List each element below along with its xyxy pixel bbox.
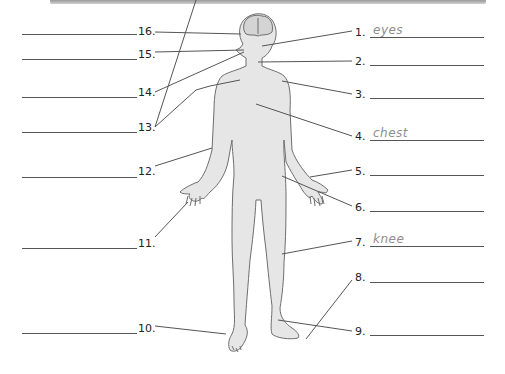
answer-blank[interactable]	[370, 98, 484, 99]
label-number: 10.	[138, 323, 156, 335]
answer-text: knee	[373, 233, 404, 245]
answer-blank[interactable]	[370, 211, 484, 212]
answer-text: eyes	[373, 24, 403, 36]
label-number: 1.	[355, 27, 366, 39]
answer-blank[interactable]	[370, 37, 484, 38]
label-number: 3.	[355, 89, 366, 101]
answer-blank[interactable]	[370, 282, 484, 283]
label-number: 13.	[138, 122, 156, 134]
label-number: 8.	[355, 272, 366, 284]
answer-blank[interactable]	[370, 140, 484, 141]
label-number: 4.	[355, 131, 366, 143]
answer-blank[interactable]	[22, 333, 137, 334]
label-number: 16.	[138, 26, 156, 38]
label-number: 5.	[355, 166, 366, 178]
answer-blank[interactable]	[370, 175, 484, 176]
answer-blank[interactable]	[22, 248, 137, 249]
answer-blank[interactable]	[22, 97, 137, 98]
answer-blank[interactable]	[22, 59, 137, 60]
label-number: 14.	[138, 87, 156, 99]
label-number: 7.	[355, 237, 366, 249]
label-number: 12.	[138, 166, 156, 178]
answer-blank[interactable]	[22, 34, 137, 35]
answer-blank[interactable]	[370, 246, 484, 247]
label-number: 2.	[355, 56, 366, 68]
answer-blank[interactable]	[370, 335, 484, 336]
human-body-figure	[0, 0, 505, 374]
answer-text: chest	[373, 127, 408, 139]
body-silhouette	[180, 14, 328, 351]
label-number: 9.	[355, 326, 366, 338]
label-number: 11.	[138, 238, 156, 250]
answer-blank[interactable]	[22, 177, 137, 178]
label-number: 6.	[355, 202, 366, 214]
answer-blank[interactable]	[22, 132, 137, 133]
label-number: 15.	[138, 49, 156, 61]
answer-blank[interactable]	[370, 65, 484, 66]
